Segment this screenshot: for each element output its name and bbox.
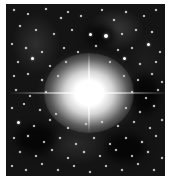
star [75,143,77,145]
star [53,33,55,35]
star [121,33,123,35]
star [101,9,103,11]
star [161,81,163,83]
diffraction-spike-horizontal [9,92,165,94]
star [67,157,69,159]
star [131,155,133,157]
star [27,13,29,15]
star [113,19,115,21]
star [17,121,20,124]
star [159,51,161,53]
dark-patch [131,74,159,114]
star [23,103,25,105]
star [93,137,95,139]
star [27,73,29,75]
star [147,43,150,46]
star [17,61,19,63]
star [151,73,153,75]
star [49,119,51,121]
star [63,47,65,49]
star [121,169,123,171]
star [117,125,119,127]
star [11,43,13,45]
star [31,57,34,60]
star [99,155,101,157]
star [71,29,73,31]
star [135,29,137,31]
star [155,9,157,11]
star [57,169,59,171]
star [104,34,108,38]
star [13,9,15,11]
star [35,155,37,157]
star-field-photo [6,4,165,176]
star [25,169,27,171]
star [157,89,159,91]
star [73,165,75,167]
star [45,8,47,10]
star [95,45,97,47]
star [67,11,69,13]
star [51,149,53,151]
star [139,63,141,65]
star [15,89,17,91]
star [49,65,51,67]
star [131,47,133,49]
star [137,79,139,81]
star [149,127,151,129]
star [145,97,147,99]
star [19,25,21,27]
star [11,107,13,109]
star [43,141,45,143]
star [89,171,91,173]
star [11,165,13,167]
star [155,135,157,137]
star [161,119,163,121]
star [41,51,43,53]
star [13,75,15,77]
star [117,49,119,51]
star [139,111,141,113]
star [80,15,82,17]
star [137,163,139,165]
star [35,29,37,31]
star [29,95,31,97]
star [89,33,92,36]
star [143,15,145,17]
star [13,137,15,139]
star [133,121,135,123]
star [77,51,79,53]
star [155,61,157,63]
star [161,157,163,159]
star [105,165,107,167]
star [33,125,35,127]
dark-patch [16,124,56,154]
star [125,137,127,139]
star [59,137,61,139]
star [41,163,43,165]
star [109,143,111,145]
star [39,109,41,111]
star [153,169,155,171]
star [19,151,21,153]
star [123,57,126,60]
diffraction-spike-vertical [88,53,90,133]
star [115,149,117,151]
